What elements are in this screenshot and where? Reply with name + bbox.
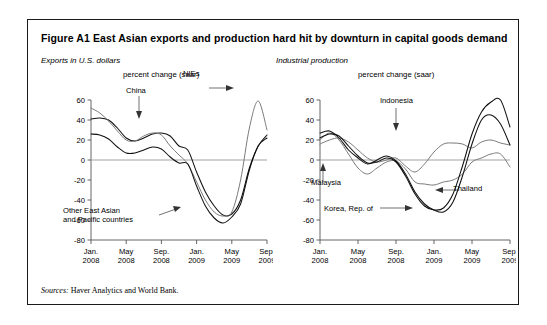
- leader-china-arrowhead: [136, 111, 142, 119]
- svg-text:2009: 2009: [223, 256, 240, 265]
- series-line-china: [91, 118, 267, 216]
- right-chart-industrial-production: 6040200-20-40-60-80Jan.2008May2008Sep.20…: [268, 78, 516, 286]
- svg-text:2008: 2008: [388, 256, 405, 265]
- svg-text:-80: -80: [303, 236, 314, 245]
- svg-text:0: 0: [81, 156, 85, 165]
- leader-other-arrowhead: [173, 206, 181, 212]
- svg-text:-80: -80: [74, 236, 85, 245]
- leader-nies-arrowhead: [226, 85, 234, 91]
- svg-text:Jan.: Jan.: [189, 247, 203, 256]
- figure-title: Figure A1 East Asian exports and product…: [41, 32, 511, 44]
- svg-text:60: 60: [77, 96, 85, 105]
- svg-text:2008: 2008: [153, 256, 170, 265]
- svg-text:-60: -60: [303, 216, 314, 225]
- leader-thailand-arrowhead: [435, 187, 443, 193]
- svg-text:20: 20: [306, 136, 314, 145]
- svg-text:2009: 2009: [188, 256, 205, 265]
- svg-text:40: 40: [77, 116, 85, 125]
- left-chart-exports: 6040200-20-40-60-80Jan.2008May2008Sep.20…: [33, 78, 273, 286]
- annotation-other-east-asian: Other East Asian and Pacific countries: [63, 206, 155, 224]
- svg-text:60: 60: [306, 96, 314, 105]
- annotation-other-east-asian-line1: Other East Asian: [63, 206, 120, 215]
- svg-text:2008: 2008: [83, 256, 100, 265]
- svg-text:2009: 2009: [502, 256, 516, 265]
- svg-text:Jan.: Jan.: [313, 247, 327, 256]
- svg-text:0: 0: [310, 156, 314, 165]
- annotation-nies: NIEs: [183, 69, 199, 78]
- svg-text:Sep.: Sep.: [154, 247, 170, 256]
- svg-text:Jan.: Jan.: [84, 247, 98, 256]
- svg-text:Jan.: Jan.: [427, 247, 441, 256]
- leader-malaysia-arrowhead: [320, 163, 326, 171]
- sources-label: Sources:: [41, 286, 69, 295]
- svg-text:May: May: [119, 247, 134, 256]
- leader-korea-arrowhead: [405, 205, 413, 211]
- left-panel-caption: Exports in U.S. dollars: [41, 56, 120, 65]
- annotation-malaysia: Malaysia: [311, 178, 341, 187]
- series-line-malaysia: [320, 133, 510, 185]
- svg-text:Sep.: Sep.: [388, 247, 404, 256]
- leader-other: [159, 209, 176, 215]
- svg-text:2008: 2008: [118, 256, 135, 265]
- svg-text:40: 40: [306, 116, 314, 125]
- svg-text:-40: -40: [303, 196, 314, 205]
- svg-text:May: May: [465, 247, 480, 256]
- figure-panel: Figure A1 East Asian exports and product…: [27, 19, 519, 305]
- right-panel-caption: Industrial production: [276, 56, 348, 65]
- leader-indonesia-arrowhead: [393, 123, 399, 131]
- svg-text:2009: 2009: [464, 256, 481, 265]
- annotation-korea: Korea, Rep. of: [324, 204, 373, 213]
- sources-note: Sources: Haver Analytics and World Bank.: [41, 286, 179, 295]
- svg-text:May: May: [225, 247, 240, 256]
- sources-text: Haver Analytics and World Bank.: [69, 286, 179, 295]
- svg-text:2009: 2009: [426, 256, 443, 265]
- annotation-thailand: Thailand: [453, 184, 482, 193]
- svg-text:2008: 2008: [312, 256, 329, 265]
- annotation-other-east-asian-line2: and Pacific countries: [63, 215, 133, 224]
- svg-text:-20: -20: [74, 176, 85, 185]
- svg-text:20: 20: [77, 136, 85, 145]
- annotation-indonesia: Indonesia: [380, 96, 413, 105]
- annotation-china: China: [126, 86, 146, 95]
- svg-text:-40: -40: [74, 196, 85, 205]
- series-line-indonesia: [320, 138, 510, 172]
- svg-text:2008: 2008: [350, 256, 367, 265]
- svg-text:Sep.: Sep.: [502, 247, 516, 256]
- series-line-korea-rep-of: [320, 115, 510, 213]
- svg-text:May: May: [351, 247, 366, 256]
